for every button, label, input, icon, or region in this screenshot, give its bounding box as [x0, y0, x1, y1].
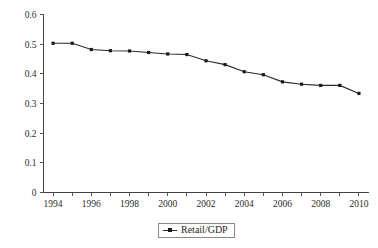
y-tick-label: 0.3 [25, 99, 37, 109]
y-tick-label: 0.5 [25, 40, 37, 50]
series-marker-point [262, 73, 265, 76]
chart-legend: Retail/GDP [158, 223, 235, 238]
y-tick-label: 0.2 [25, 129, 37, 139]
legend-label-retail-gdp: Retail/GDP [181, 225, 228, 235]
x-tick-label: 1998 [120, 199, 139, 209]
series-marker-point [166, 52, 169, 55]
x-tick-label: 2002 [197, 199, 216, 209]
x-tick-label: 2000 [158, 199, 177, 209]
x-tick-label: 1996 [82, 199, 101, 209]
data-series-retail-gdp [51, 42, 360, 95]
x-tick-label: 2010 [349, 199, 368, 209]
line-chart-plot: 00.10.20.30.40.50.6 19941996199820002002… [0, 0, 378, 248]
x-tick-label: 2006 [273, 199, 292, 209]
series-marker-point [300, 83, 303, 86]
y-tick-label: 0.4 [25, 69, 37, 79]
y-tick-label: 0.6 [25, 10, 37, 20]
series-marker-point [319, 84, 322, 87]
series-marker-point [357, 92, 360, 95]
y-tick-label: 0.1 [25, 158, 37, 168]
legend-line-marker-icon [163, 226, 177, 235]
series-marker-point [243, 70, 246, 73]
x-tick-label: 2004 [235, 199, 254, 209]
series-marker-point [281, 80, 284, 83]
series-marker-point [147, 51, 150, 54]
x-tick-label: 1994 [44, 199, 63, 209]
series-marker-point [338, 84, 341, 87]
y-axis: 00.10.20.30.40.50.6 [25, 10, 44, 198]
series-marker-point [204, 59, 207, 62]
x-axis: 199419961998200020022004200620082010 [44, 193, 369, 209]
series-marker-point [185, 53, 188, 56]
series-marker-point [71, 42, 74, 45]
series-marker-point [109, 49, 112, 52]
series-marker-point [128, 49, 131, 52]
x-tick-label: 2008 [311, 199, 330, 209]
series-marker-point [224, 63, 227, 66]
chart-figure: 00.10.20.30.40.50.6 19941996199820002002… [0, 0, 378, 248]
series-marker-point [51, 42, 54, 45]
series-line-retail-gdp [53, 43, 359, 93]
y-tick-label: 0 [32, 188, 37, 198]
series-marker-point [90, 48, 93, 51]
